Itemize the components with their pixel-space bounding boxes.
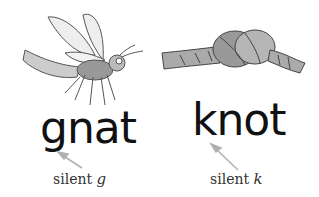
caption-silent-g: silent g xyxy=(53,170,106,188)
caption-letter: k xyxy=(254,170,263,188)
caption-prefix: silent xyxy=(210,171,249,187)
caption-letter: g xyxy=(97,170,107,188)
arrow-head-icon xyxy=(211,144,221,152)
caption-silent-k: silent k xyxy=(210,170,263,188)
arrow-to-k xyxy=(215,148,238,170)
caption-prefix: silent xyxy=(53,171,92,187)
pointer-arrows xyxy=(0,0,319,197)
